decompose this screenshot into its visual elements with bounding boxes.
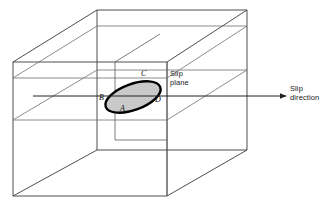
slip-plane-label: Slip plane — [170, 70, 189, 87]
vertex-label-a: A — [120, 105, 125, 113]
diagram-canvas — [0, 0, 326, 218]
block-edge-bottom-right — [167, 150, 247, 196]
block-edge-top-left — [13, 10, 97, 62]
slip-direction-label: Slip direction — [290, 85, 319, 102]
vertex-label-b: B — [99, 94, 104, 102]
slip-plane-diagram: C B D A Slip plane Slip direction — [0, 0, 326, 218]
slip-plane-depth-left-top — [13, 26, 97, 78]
inner-edge-depth — [115, 34, 160, 62]
vertex-label-c: C — [141, 70, 146, 78]
block-edge-top-right — [167, 10, 247, 62]
vertex-label-d: D — [155, 96, 161, 104]
inner-prism-edges — [115, 34, 167, 196]
slip-plane-depth-left-bottom — [13, 70, 97, 120]
block-edge-bottom-left — [13, 150, 97, 196]
